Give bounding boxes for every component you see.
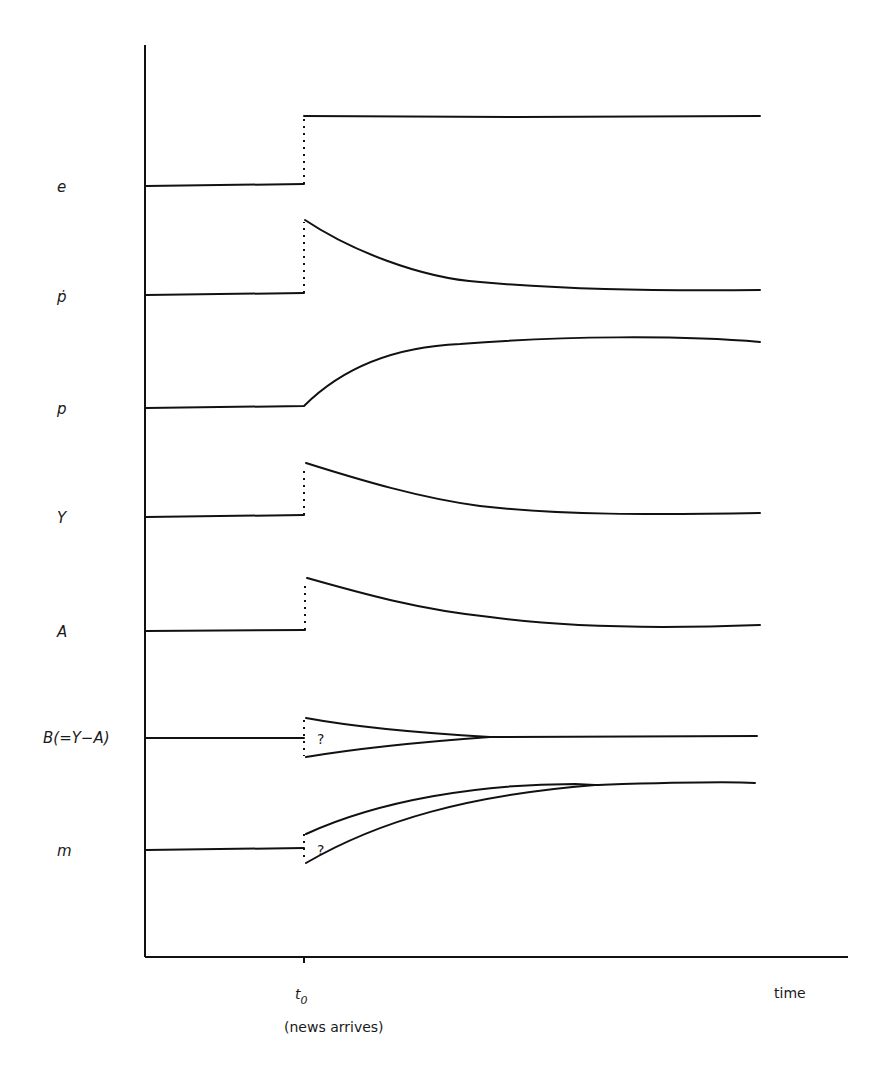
news-arrives-label: (news arrives) (284, 1019, 384, 1035)
label-p: p (56, 400, 67, 418)
label-e: e (57, 178, 66, 196)
series-p (146, 337, 760, 408)
time-axis-label: time (774, 985, 806, 1001)
label-B: B(=Y−A) (43, 729, 110, 747)
impulse-response-figure: e ṗ p Y A B(=Y−A) m ? (0, 0, 883, 1071)
series-m: ? (146, 782, 755, 863)
series-A (146, 578, 760, 631)
series-B: ? (146, 718, 757, 757)
t0-label: t0 (295, 986, 308, 1007)
series-p-dot (146, 220, 760, 295)
series-e (146, 116, 760, 186)
label-Y: Y (57, 509, 68, 527)
label-p-dot: ṗ (56, 288, 67, 306)
label-m: m (57, 842, 72, 860)
question-mark-m: ? (317, 842, 324, 858)
question-mark-b: ? (317, 731, 324, 747)
label-A: A (56, 623, 67, 641)
series-Y (146, 463, 760, 517)
